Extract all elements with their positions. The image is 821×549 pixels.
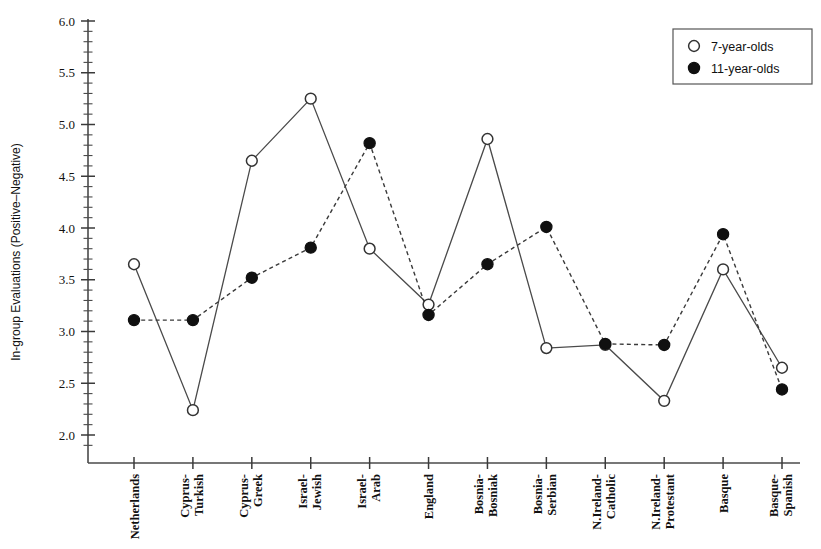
data-point <box>364 138 375 149</box>
category-label-line: Protestant <box>663 473 677 529</box>
data-point <box>659 339 670 350</box>
legend-label: 11-year-olds <box>711 62 780 76</box>
category-label-line: Israel- <box>355 474 369 509</box>
series-line-1 <box>134 99 782 411</box>
y-tick-label: 3.5 <box>59 272 75 287</box>
category-label-line: Basque <box>717 474 731 513</box>
y-tick-label: 5.5 <box>59 65 75 80</box>
category-label-line: N.Ireland- <box>649 474 663 530</box>
data-point <box>305 242 316 253</box>
data-point <box>776 384 787 395</box>
y-tick-label: 3.0 <box>59 324 75 339</box>
category-label: Netherlands <box>128 474 142 539</box>
data-point <box>541 221 552 232</box>
data-point <box>188 405 199 416</box>
data-point <box>364 243 375 254</box>
legend-marker-filled-circle-icon <box>688 62 699 73</box>
y-tick-label: 2.5 <box>59 376 75 391</box>
chart-figure: 2.02.53.03.54.04.55.05.56.0 NetherlandsC… <box>0 0 821 549</box>
category-label: N.Ireland-Catholic <box>590 474 618 530</box>
chart-legend: 7-year-olds11-year-olds <box>673 29 812 84</box>
category-label-line: Spanish <box>781 474 795 516</box>
data-point <box>659 395 670 406</box>
legend-box <box>673 29 812 84</box>
category-label-line: Catholic <box>604 474 618 520</box>
ingroup-evaluations-line-chart: 2.02.53.03.54.04.55.05.56.0 NetherlandsC… <box>0 0 821 549</box>
data-point <box>423 309 434 320</box>
category-label-line: Basque- <box>767 474 781 517</box>
y-axis: 2.02.53.03.54.04.55.05.56.0 <box>59 14 95 464</box>
data-point <box>129 259 140 270</box>
category-label-line: England <box>422 474 436 519</box>
data-point <box>777 362 788 373</box>
category-label: Cyprus-Greek <box>237 474 265 518</box>
data-point <box>717 229 728 240</box>
data-point <box>128 315 139 326</box>
data-point <box>246 272 257 283</box>
category-label-line: Cyprus- <box>178 474 192 518</box>
category-label-line: Bosnia- <box>472 474 486 514</box>
category-label-line: Netherlands <box>128 474 142 539</box>
category-label-line: Israel- <box>296 474 310 509</box>
category-label: N.Ireland-Protestant <box>649 473 677 530</box>
category-label-line: Serbian <box>545 474 559 516</box>
category-label-line: Arab <box>369 474 383 502</box>
category-label: Israel-Jewish <box>296 474 324 510</box>
data-point <box>423 299 434 310</box>
data-point <box>718 264 729 275</box>
y-tick-label: 4.5 <box>59 169 75 184</box>
category-label-line: Cyprus- <box>237 474 251 518</box>
category-label-line: N.Ireland- <box>590 474 604 530</box>
category-labels: NetherlandsCyprus-TurkishCyprus-GreekIsr… <box>128 473 796 539</box>
x-axis <box>88 457 800 469</box>
category-label: Bosnia-Serbian <box>531 474 559 516</box>
category-label: Israel-Arab <box>355 474 383 509</box>
legend-marker-open-circle-icon <box>689 41 700 52</box>
y-axis-title-text: In-group Evaluations (Positive–Negative) <box>9 143 23 360</box>
category-label: Basque-Spanish <box>767 474 795 517</box>
data-series-group <box>128 93 787 415</box>
legend-label: 7-year-olds <box>711 40 774 54</box>
data-point <box>482 134 493 145</box>
y-tick-label: 6.0 <box>59 14 75 29</box>
data-point <box>246 155 257 166</box>
category-label-line: Greek <box>251 474 265 507</box>
y-tick-label: 4.0 <box>59 221 75 236</box>
category-label-line: Jewish <box>310 474 324 510</box>
category-label: Cyprus-Turkish <box>178 474 206 518</box>
data-point <box>541 343 552 354</box>
y-tick-label: 5.0 <box>59 117 75 132</box>
category-label-line: Bosniak <box>486 474 500 517</box>
data-point <box>482 259 493 270</box>
data-point <box>305 93 316 104</box>
y-axis-title: In-group Evaluations (Positive–Negative) <box>9 143 23 360</box>
data-point <box>600 338 611 349</box>
category-label: Bosnia-Bosniak <box>472 474 500 517</box>
y-tick-label: 2.0 <box>59 428 75 443</box>
series-line-2 <box>134 143 782 389</box>
data-point <box>187 315 198 326</box>
category-label-line: Turkish <box>192 474 206 516</box>
category-label: Basque <box>717 474 731 513</box>
category-label: England <box>422 474 436 519</box>
category-label-line: Bosnia- <box>531 474 545 514</box>
